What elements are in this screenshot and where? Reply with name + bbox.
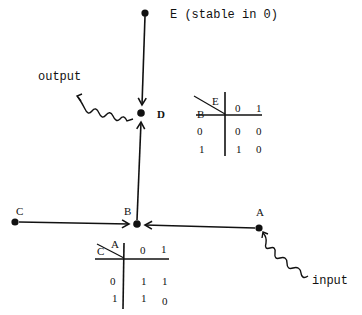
table-b-cell: 0: [162, 295, 168, 307]
table-b-row-1-key: 1: [112, 292, 118, 304]
table-b-cell: 1: [141, 275, 147, 287]
node-c-label: C: [16, 205, 23, 217]
node-b-label: B: [124, 205, 131, 217]
edge-a-to-b: [145, 225, 255, 228]
node-a: A: [255, 206, 264, 232]
node-a-label: A: [256, 206, 264, 218]
node-d-dot: [137, 109, 145, 117]
node-c-dot: [11, 218, 18, 225]
truth-table-b: C A 0 1 0 1 1 1 1 0: [95, 238, 169, 309]
node-e-label: E (stable in 0): [170, 8, 278, 22]
table-d-cell: 0: [256, 143, 262, 155]
table-b-row-var: C: [97, 245, 104, 257]
truth-table-d: B E 0 1 0 0 0 1 1 0: [194, 92, 262, 156]
node-e: E (stable in 0): [141, 8, 278, 22]
table-d-col-var: E: [212, 95, 219, 107]
table-d-col-1: 1: [256, 102, 262, 114]
output-arrowhead-icon: [77, 94, 82, 101]
node-e-dot: [141, 9, 148, 16]
table-d-cell: 0: [256, 125, 262, 137]
node-d-label: D: [157, 108, 165, 120]
edge-b-to-d: [137, 122, 141, 220]
output-wavy-arrow: [78, 97, 133, 121]
table-b-col-0: 0: [140, 244, 146, 256]
node-d: D: [137, 108, 165, 120]
table-d-cell: 1: [236, 143, 242, 155]
table-d-row-0-key: 0: [197, 125, 203, 137]
table-b-cell: 1: [162, 275, 168, 287]
table-b-row-0-key: 0: [110, 275, 116, 287]
output-label: output: [38, 70, 81, 84]
table-d-row-var: B: [197, 108, 204, 120]
table-d-row-1-key: 1: [199, 143, 205, 155]
input-signal: input: [262, 232, 348, 288]
node-a-dot: [255, 224, 262, 231]
node-b-dot: [133, 220, 141, 228]
circuit-diagram: E (stable in 0) D output B E 0 1 0 0 0 1…: [0, 0, 362, 315]
input-label: input: [312, 274, 348, 288]
table-b-col-var: A: [111, 238, 119, 250]
table-b-vline: [123, 243, 124, 309]
edge-e-to-d: [142, 16, 145, 105]
table-d-col-0: 0: [235, 102, 241, 114]
output-signal: output: [38, 70, 133, 121]
input-wavy-arrow: [263, 233, 308, 277]
edge-c-to-b: [19, 222, 129, 224]
table-d-cell: 0: [235, 125, 241, 137]
table-b-cell: 1: [141, 292, 147, 304]
table-b-col-1: 1: [161, 243, 167, 255]
